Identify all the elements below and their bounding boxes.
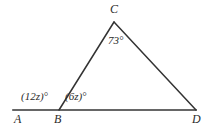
vertex-label-c: C bbox=[110, 3, 118, 15]
triangle-diagram bbox=[0, 0, 214, 131]
vertex-label-b: B bbox=[54, 113, 61, 125]
geometry-figure: A B C D 73° (12z)° (6z)° bbox=[0, 0, 214, 131]
vertex-label-d: D bbox=[192, 113, 201, 125]
angle-label-exterior-at-b: (12z)° bbox=[21, 91, 48, 102]
angle-label-at-c: 73° bbox=[108, 35, 123, 46]
vertex-label-a: A bbox=[14, 113, 21, 125]
side-line-CD bbox=[114, 22, 196, 110]
angle-label-interior-at-b: (6z)° bbox=[65, 91, 87, 102]
